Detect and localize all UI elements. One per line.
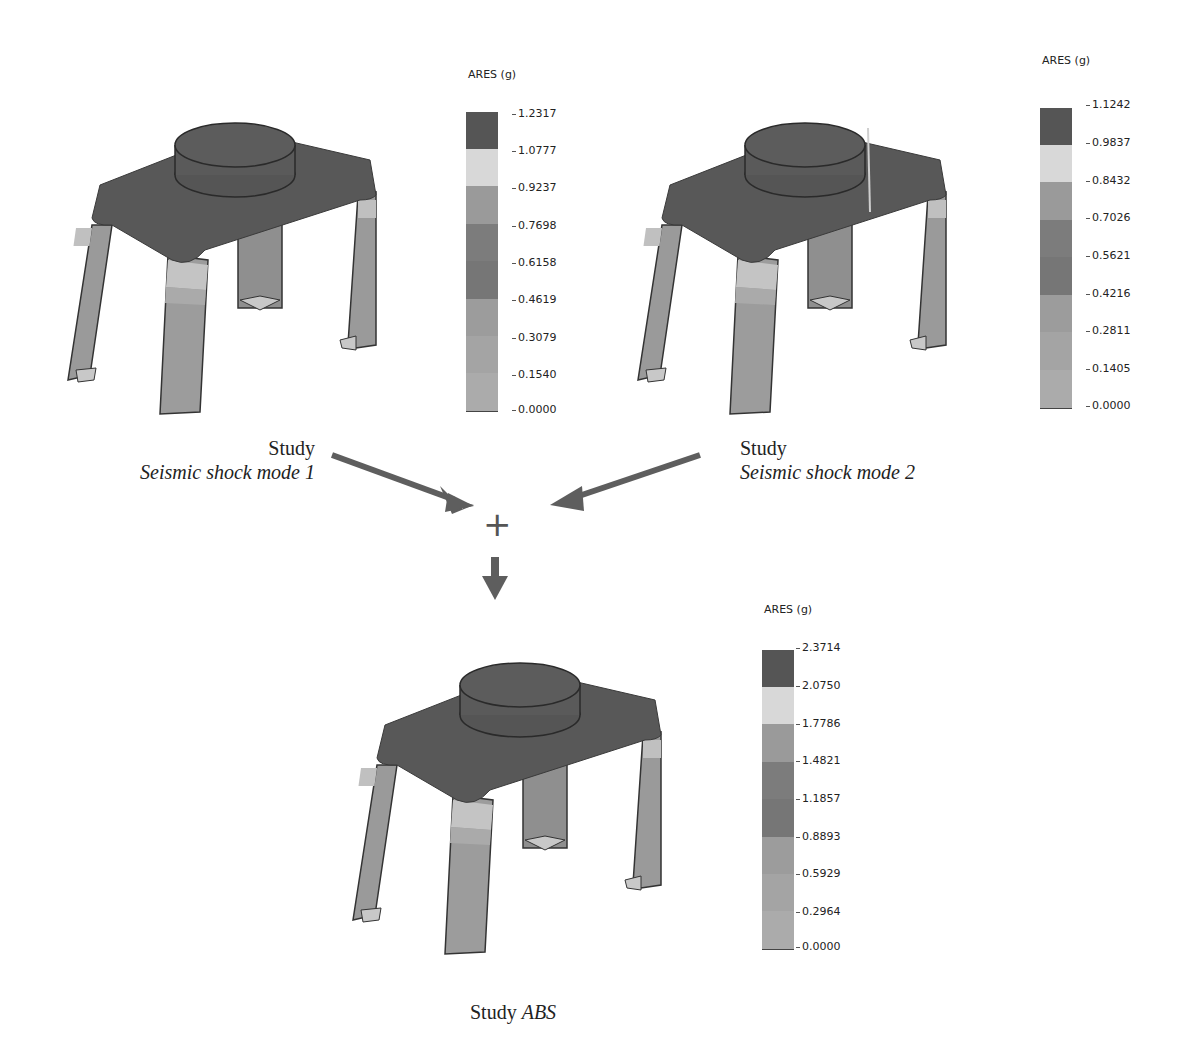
- legend-tick: 1.7786: [802, 717, 841, 730]
- model-study-1: [60, 100, 460, 430]
- legend-color-bar: [466, 112, 498, 412]
- legend-tick: 0.6158: [518, 256, 557, 269]
- legend-study-2: ARES (g) 1.1242 0.9837 0.8432 0.7026 0.5…: [1040, 40, 1160, 420]
- caption-prefix: Study: [740, 436, 915, 460]
- legend-tick: 0.3079: [518, 331, 557, 344]
- legend-tick: 0.8893: [802, 830, 841, 843]
- legend-title: ARES (g): [1042, 54, 1090, 67]
- legend-tick: 0.4619: [518, 293, 557, 306]
- legend-color-bar: [1040, 108, 1072, 409]
- model-study-abs: [345, 640, 745, 970]
- legend-tick: 0.4216: [1092, 287, 1131, 300]
- legend-tick: 2.0750: [802, 679, 841, 692]
- legend-tick: 0.7026: [1092, 211, 1131, 224]
- legend-title: ARES (g): [764, 603, 812, 616]
- caption-prefix: Study: [470, 1001, 517, 1023]
- legend-tick: 0.0000: [1092, 399, 1131, 412]
- legend-tick: 0.1405: [1092, 362, 1131, 375]
- stool-model-icon: [600, 100, 1020, 430]
- legend-tick: 0.9237: [518, 181, 557, 194]
- legend-tick: 0.0000: [802, 940, 841, 953]
- caption-study-name: Seismic shock mode 1: [140, 460, 315, 484]
- legend-tick: 1.2317: [518, 107, 557, 120]
- caption-study-2: Study Seismic shock mode 2: [740, 436, 915, 484]
- arrow-right-down-icon: [332, 455, 474, 514]
- stool-model-icon: [345, 640, 745, 970]
- legend-tick: 0.5929: [802, 867, 841, 880]
- legend-tick: 0.9837: [1092, 136, 1131, 149]
- model-study-2: [600, 100, 1020, 430]
- caption-study-abs: Study ABS: [470, 1000, 556, 1024]
- legend-title: ARES (g): [468, 68, 516, 81]
- caption-study-1: Study Seismic shock mode 1: [140, 436, 315, 484]
- legend-tick: 1.1242: [1092, 98, 1131, 111]
- arrow-down-icon: [482, 557, 508, 600]
- legend-tick: 0.1540: [518, 368, 557, 381]
- legend-tick: 0.0000: [518, 403, 557, 416]
- legend-tick: 0.5621: [1092, 249, 1131, 262]
- legend-color-bar: [762, 650, 794, 950]
- legend-study-abs: ARES (g) 2.3714 2.0750 1.7786 1.4821 1.1…: [762, 595, 882, 965]
- legend-tick: 0.8432: [1092, 174, 1131, 187]
- stool-model-icon: [60, 100, 460, 430]
- caption-study-name: ABS: [522, 1001, 556, 1023]
- legend-tick: 2.3714: [802, 641, 841, 654]
- legend-tick: 1.4821: [802, 754, 841, 767]
- legend-tick: 0.2964: [802, 905, 841, 918]
- caption-prefix: Study: [140, 436, 315, 460]
- legend-tick: 0.2811: [1092, 324, 1131, 337]
- arrow-left-down-icon: [550, 455, 700, 511]
- plus-operator: +: [483, 507, 512, 541]
- legend-study-1: ARES (g) 1.2317 1.0777 0.9237 0.7698 0.6…: [466, 60, 576, 430]
- caption-study-name: Seismic shock mode 2: [740, 460, 915, 484]
- legend-tick: 1.0777: [518, 144, 557, 157]
- legend-tick: 1.1857: [802, 792, 841, 805]
- legend-tick: 0.7698: [518, 219, 557, 232]
